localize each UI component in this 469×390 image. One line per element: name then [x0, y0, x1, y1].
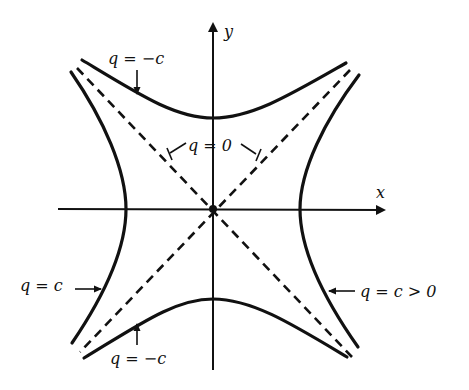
label-left-curve: q = c: [20, 276, 63, 295]
x-axis-label: x: [376, 183, 385, 202]
label-bottom-curve: q = −c: [110, 349, 166, 368]
tick-right-asymptote: [256, 149, 261, 161]
y-axis-label: y: [223, 22, 234, 41]
right-hyperbola-branch: [300, 75, 359, 347]
label-asymptotes: q = 0: [188, 136, 232, 155]
leader-left-asymptote: [170, 143, 186, 153]
hyperbola-diagram: x y q = −c q = 0 q = c q = c > 0: [0, 0, 469, 390]
label-right-curve: q = c > 0: [360, 282, 437, 301]
x-axis: [58, 209, 384, 210]
tick-left-asymptote: [167, 148, 172, 160]
leader-right-asymptote: [241, 144, 256, 154]
label-top-curve: q = −c: [108, 49, 164, 68]
origin-point: [209, 205, 217, 213]
